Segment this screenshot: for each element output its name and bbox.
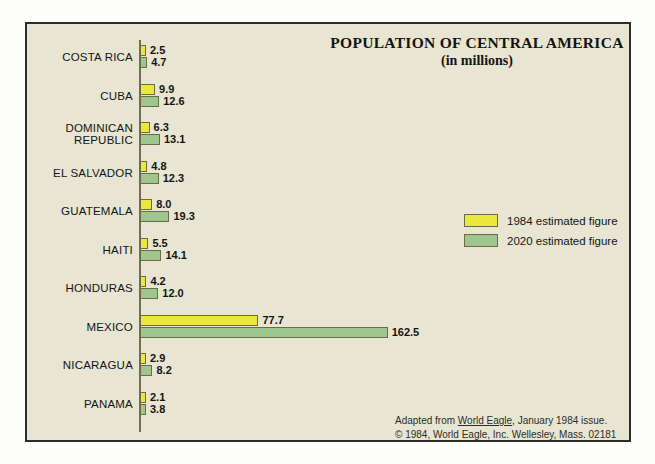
category-label: PANAMA — [25, 398, 133, 410]
bar-1984 — [140, 161, 147, 172]
bar-value-2020: 14.1 — [165, 250, 186, 261]
bar-value-2020: 162.5 — [392, 327, 420, 338]
bar-value-1984: 6.3 — [154, 122, 169, 133]
legend-swatch-1984 — [464, 214, 498, 227]
bar-2020 — [140, 173, 159, 184]
bar-2020 — [140, 250, 161, 261]
category-label: HAITI — [25, 244, 133, 256]
bar-value-2020: 13.1 — [164, 134, 185, 145]
bar-1984 — [140, 276, 146, 287]
bar-value-1984: 2.5 — [150, 45, 165, 56]
bar-value-2020: 4.7 — [151, 57, 166, 68]
bar-1984 — [140, 392, 146, 403]
bar-2020 — [140, 288, 158, 299]
source-prefix: Adapted from — [395, 415, 458, 426]
legend-swatch-2020 — [464, 234, 498, 247]
category-label: NICARAGUA — [25, 359, 133, 371]
bar-value-2020: 3.8 — [150, 404, 165, 415]
bar-value-2020: 12.6 — [163, 96, 184, 107]
chart-legend: 1984 estimated figure 2020 estimated fig… — [464, 214, 618, 254]
bar-2020 — [140, 96, 159, 107]
category-label: DOMINICANREPUBLIC — [25, 122, 133, 146]
bar-1984 — [140, 84, 155, 95]
bar-2020 — [140, 57, 147, 68]
category-label: EL SALVADOR — [25, 167, 133, 179]
legend-label-2020: 2020 estimated figure — [507, 235, 618, 247]
bar-value-1984: 5.5 — [152, 238, 167, 249]
source-line: Adapted from World Eagle, January 1984 i… — [395, 414, 627, 428]
bar-value-1984: 8.0 — [156, 199, 171, 210]
bar-2020 — [140, 211, 169, 222]
bar-value-1984: 77.7 — [262, 315, 283, 326]
bar-row: HONDURAS4.212.0 — [27, 273, 631, 303]
source-suffix: , January 1984 issue. — [512, 415, 607, 426]
bar-value-2020: 19.3 — [173, 211, 194, 222]
bar-row: DOMINICANREPUBLIC6.313.1 — [27, 119, 631, 149]
category-label: GUATEMALA — [25, 205, 133, 217]
bar-value-1984: 2.9 — [150, 353, 165, 364]
chart-frame: POPULATION OF CENTRAL AMERICA (in millio… — [25, 22, 631, 442]
bar-value-2020: 12.3 — [163, 173, 184, 184]
legend-label-1984: 1984 estimated figure — [507, 215, 618, 227]
bar-1984 — [140, 45, 146, 56]
bar-row: CUBA9.912.6 — [27, 81, 631, 111]
bar-value-1984: 4.8 — [151, 161, 166, 172]
category-label: MEXICO — [25, 321, 133, 333]
bar-1984 — [140, 199, 152, 210]
copyright-line: © 1984, World Eagle, Inc. Wellesley, Mas… — [395, 428, 627, 442]
bar-1984 — [140, 122, 150, 133]
bar-value-1984: 4.2 — [150, 276, 165, 287]
category-label: HONDURAS — [25, 282, 133, 294]
bar-value-2020: 12.0 — [162, 288, 183, 299]
bar-row: EL SALVADOR4.812.3 — [27, 158, 631, 188]
legend-item-2020: 2020 estimated figure — [464, 234, 618, 247]
bar-1984 — [140, 353, 146, 364]
bar-2020 — [140, 404, 146, 415]
bar-2020 — [140, 327, 388, 338]
source-publication: World Eagle — [458, 415, 512, 426]
legend-item-1984: 1984 estimated figure — [464, 214, 618, 227]
bar-2020 — [140, 365, 152, 376]
category-label: COSTA RICA — [25, 51, 133, 63]
bar-value-2020: 8.2 — [156, 365, 171, 376]
bar-2020 — [140, 134, 160, 145]
bar-1984 — [140, 238, 148, 249]
bar-row: NICARAGUA2.98.2 — [27, 350, 631, 380]
bar-row: MEXICO77.7162.5 — [27, 312, 631, 342]
bar-value-1984: 9.9 — [159, 84, 174, 95]
bar-row: COSTA RICA2.54.7 — [27, 42, 631, 72]
category-label: CUBA — [25, 90, 133, 102]
bar-1984 — [140, 315, 258, 326]
bar-value-1984: 2.1 — [150, 392, 165, 403]
source-attribution: Adapted from World Eagle, January 1984 i… — [395, 414, 627, 442]
